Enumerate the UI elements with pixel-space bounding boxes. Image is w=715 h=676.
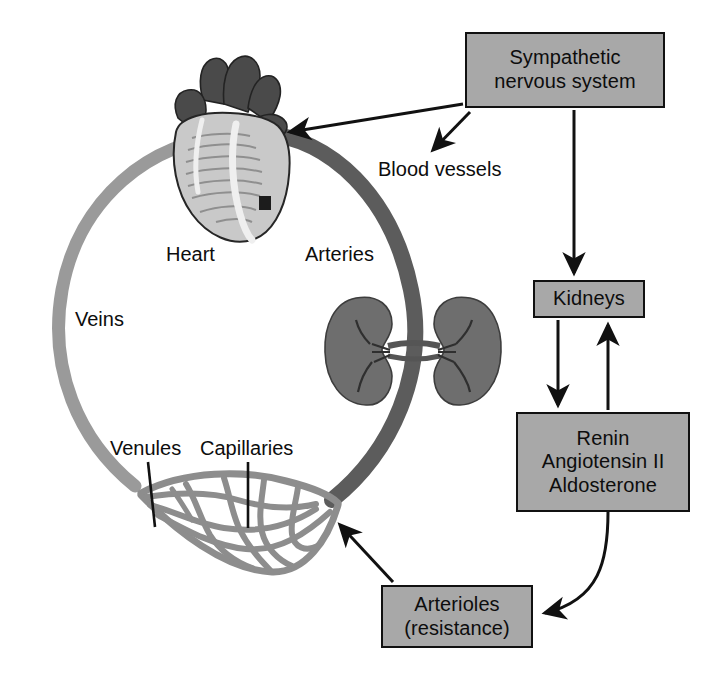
node-arterioles-resistance[interactable]: Arterioles (resistance): [381, 585, 533, 648]
label-heart: Heart: [166, 243, 215, 266]
label-veins: Veins: [75, 308, 124, 331]
arrow-sympathetic-to-blood-vessels: [433, 112, 470, 150]
label-venules: Venules: [110, 437, 181, 460]
arrow-arterioles-to-capillaries: [340, 525, 393, 582]
node-arterioles-line-2: (resistance): [404, 617, 510, 641]
node-renin-angiotensin-aldosterone[interactable]: Renin Angiotensin II Aldosterone: [516, 412, 690, 512]
node-renin-line-2: Angiotensin II: [542, 450, 665, 474]
heart-illustration: [174, 56, 290, 241]
node-renin-line-1: Renin: [577, 427, 630, 451]
node-sympathetic-line-2: nervous system: [494, 70, 635, 94]
arrow-renin-to-arterioles: [545, 512, 608, 613]
diagram-root: Sympathetic nervous system Kidneys Renin…: [0, 0, 715, 676]
label-blood-vessels: Blood vessels: [378, 158, 501, 181]
arrow-sympathetic-to-heart: [290, 104, 463, 132]
label-capillaries: Capillaries: [200, 437, 293, 460]
label-arteries: Arteries: [305, 243, 374, 266]
node-arterioles-line-1: Arterioles: [414, 593, 499, 617]
node-renin-line-3: Aldosterone: [549, 474, 657, 498]
node-sympathetic-line-1: Sympathetic: [509, 46, 620, 70]
node-kidneys[interactable]: Kidneys: [533, 280, 645, 318]
node-kidneys-line-1: Kidneys: [553, 287, 625, 311]
capillary-bed-illustration: [141, 474, 338, 572]
node-sympathetic-nervous-system[interactable]: Sympathetic nervous system: [465, 32, 665, 108]
